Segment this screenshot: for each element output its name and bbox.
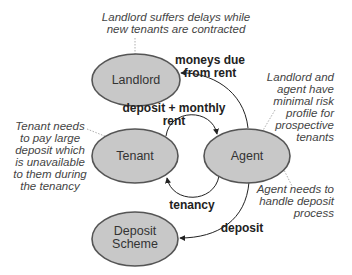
svg-text:agent have: agent have: [277, 83, 334, 95]
node-label: Landlord: [112, 73, 161, 87]
edge-label-tenancy: tenancy: [169, 198, 215, 212]
leader-tenant: [87, 129, 107, 137]
svg-text:Landlord suffers delays while: Landlord suffers delays while: [102, 11, 250, 23]
edge-label-moneys-due: from rent: [184, 66, 237, 80]
svg-text:tenants: tenants: [296, 131, 334, 143]
edge-label-deposit-rent: deposit + monthly: [122, 101, 225, 115]
node-label: Agent: [231, 149, 264, 163]
leader-landlord-agent: [262, 110, 275, 132]
svg-text:process: process: [293, 207, 335, 219]
svg-text:the tenancy: the tenancy: [20, 180, 81, 192]
svg-text:to pay large: to pay large: [20, 132, 80, 144]
edge-agent-to-tenant: [167, 176, 219, 197]
svg-text:handle deposit: handle deposit: [259, 195, 335, 207]
note-agent: Agent needs to handle deposit process: [256, 183, 335, 219]
node-agent[interactable]: Agent: [204, 129, 290, 183]
svg-text:Landlord and: Landlord and: [267, 71, 335, 83]
svg-text:to them during: to them during: [13, 168, 87, 180]
edge-label-deposit-rent: rent: [163, 114, 186, 128]
svg-text:deposit which: deposit which: [15, 144, 85, 156]
node-label: Tenant: [116, 149, 154, 163]
node-tenant[interactable]: Tenant: [92, 129, 178, 183]
node-label: Scheme: [112, 237, 158, 251]
note-landlord: Landlord suffers delays while new tenant…: [102, 11, 250, 35]
svg-text:Agent needs to: Agent needs to: [256, 183, 335, 195]
note-tenant: Tenant needs to pay large deposit which …: [13, 120, 87, 192]
svg-text:is unavailable: is unavailable: [15, 156, 85, 168]
svg-text:new tenants are contracted: new tenants are contracted: [107, 23, 246, 35]
note-landlord-agent: Landlord and agent have minimal risk pro…: [267, 71, 335, 143]
stakeholder-diagram: Landlord Tenant Agent Deposit Scheme mon…: [0, 0, 352, 275]
edge-label-deposit: deposit: [221, 221, 264, 235]
svg-text:prospective: prospective: [274, 119, 334, 131]
svg-text:profile for: profile for: [285, 107, 335, 119]
svg-text:minimal risk: minimal risk: [273, 95, 335, 107]
node-deposit-scheme[interactable]: Deposit Scheme: [92, 212, 178, 266]
node-landlord[interactable]: Landlord: [92, 54, 180, 106]
node-label: Deposit: [114, 224, 157, 238]
svg-text:Tenant needs: Tenant needs: [15, 120, 85, 132]
edge-label-moneys-due: moneys due: [175, 53, 245, 67]
